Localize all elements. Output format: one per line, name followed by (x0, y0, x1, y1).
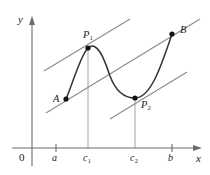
figure-canvas (0, 0, 210, 175)
point-b (169, 31, 174, 36)
secant-line-ab (46, 19, 200, 113)
x-axis-label: x (196, 153, 201, 164)
tick-label-a: a (52, 153, 57, 163)
point-a (63, 96, 68, 101)
origin-label: 0 (19, 152, 25, 163)
function-curve (66, 34, 172, 99)
y-axis-arrow-icon (29, 16, 35, 25)
tangent-line-p1 (44, 19, 130, 71)
point-label-p2: P2 (141, 100, 151, 111)
calculus-figure: y x 0 a c1 c2 b A P1 P2 B (0, 0, 210, 175)
x-axis-arrow-icon (193, 145, 202, 151)
point-label-a: A (53, 94, 59, 105)
point-label-p1: P1 (83, 30, 93, 41)
point-p2 (132, 95, 137, 100)
tangent-line-p2 (110, 72, 187, 119)
tick-label-c1: c1 (83, 153, 91, 163)
tick-label-b: b (168, 153, 173, 163)
point-label-b: B (180, 25, 186, 36)
point-p1 (85, 45, 90, 50)
tick-label-c2: c2 (130, 153, 138, 163)
y-axis-label: y (18, 14, 23, 25)
